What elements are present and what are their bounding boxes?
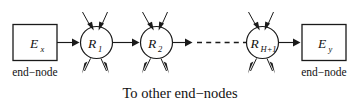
router-1-out-arrow-b xyxy=(101,59,109,74)
router-2-out-arrow-a xyxy=(142,59,151,74)
router-2: R 2 xyxy=(141,12,173,74)
end-node-right-caption: end−node xyxy=(301,66,346,78)
end-node-right-subscript: y xyxy=(328,44,333,54)
diagram-canvas: E x end−node R 1 xyxy=(0,0,358,104)
end-node-right: E y end−node xyxy=(301,25,346,79)
end-node-left: E x end−node xyxy=(12,25,57,79)
router-h1-in-arrow-a xyxy=(249,12,260,31)
end-node-left-caption: end−node xyxy=(12,66,57,78)
network-diagram: E x end−node R 1 xyxy=(0,0,358,104)
router-1-subscript: 1 xyxy=(98,44,102,54)
link-arrowhead-1 xyxy=(72,39,80,47)
router-1: R 1 xyxy=(81,12,113,74)
link-endnode-left-to-router-1 xyxy=(57,39,80,47)
link-arrowhead-2 xyxy=(132,39,140,47)
router-2-out-head-b xyxy=(164,62,170,74)
router-h1: R H+1 xyxy=(247,12,279,74)
router-1-out-head-b xyxy=(104,62,110,74)
end-node-right-symbol: E xyxy=(317,36,327,51)
bottom-caption: To other end−nodes xyxy=(122,85,237,101)
router-2-circle xyxy=(141,27,173,59)
link-arrowhead-4 xyxy=(293,39,301,47)
link-arrowhead-3 xyxy=(185,39,193,47)
router-1-circle xyxy=(81,27,113,59)
router-2-in-arrow-a xyxy=(143,12,154,31)
link-router-2-to-ellipsis xyxy=(173,39,193,47)
router-1-out-arrow-a xyxy=(82,59,91,74)
router-h1-out-head-b xyxy=(270,62,276,74)
router-2-out-arrow-b xyxy=(161,59,169,74)
router-h1-symbol: R xyxy=(250,36,260,51)
router-2-symbol: R xyxy=(147,36,157,51)
router-1-symbol: R xyxy=(87,36,97,51)
router-h1-subscript: H+1 xyxy=(260,44,277,54)
router-1-in-arrow-a xyxy=(83,12,94,31)
router-h1-out-arrow-a xyxy=(248,59,257,74)
end-node-left-subscript: x xyxy=(40,44,45,54)
router-h1-out-arrow-b xyxy=(267,59,275,74)
link-router-1-to-router-2 xyxy=(113,39,140,47)
end-node-left-symbol: E xyxy=(29,36,39,51)
link-router-h1-to-endnode-right xyxy=(279,39,301,47)
